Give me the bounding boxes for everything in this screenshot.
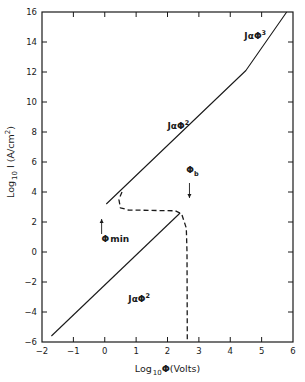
arrowhead-icon <box>187 194 191 198</box>
y-tick-label: 14 <box>26 37 37 47</box>
y-tick-label: 0 <box>32 247 37 257</box>
annotation-phi-b: Φb <box>186 165 199 178</box>
y-tick-label: −4 <box>24 307 37 317</box>
x-tick-label: 5 <box>259 346 264 356</box>
y-tick-label: 12 <box>26 67 37 77</box>
y-tick-label: 10 <box>26 97 37 107</box>
chart: −2−10123456−6−4−20246810121416 JαΦ3JαΦ2J… <box>0 0 305 382</box>
y-tick-label: 6 <box>32 157 37 167</box>
x-tick-label: −1 <box>67 346 80 356</box>
y-tick-label: 4 <box>32 187 37 197</box>
y-tick-label: 8 <box>32 127 37 137</box>
solid-line-series <box>51 213 180 336</box>
annotation-j-phi3: JαΦ3 <box>243 29 266 41</box>
y-tick-label: −6 <box>24 337 37 347</box>
y-tick-label: −2 <box>24 277 37 287</box>
x-axis-label: Log10Φ(Volts) <box>135 363 200 377</box>
plot-frame <box>42 12 293 342</box>
dashed-transition-curve <box>119 192 187 342</box>
annotation-phi-min: Φmin <box>102 234 130 244</box>
axis-ticks <box>42 12 293 342</box>
x-tick-label: 0 <box>102 346 107 356</box>
axis-tick-labels: −2−10123456−6−4−20246810121416 <box>24 7 295 356</box>
x-tick-label: −2 <box>36 346 49 356</box>
y-axis-label: Log10 I (A/cm2) <box>4 126 19 198</box>
annotations: JαΦ3JαΦ2JαΦ2ΦbΦmin <box>100 29 266 304</box>
y-tick-label: 16 <box>26 7 37 17</box>
y-tick-label: 2 <box>32 217 37 227</box>
data-series <box>51 12 286 342</box>
arrowhead-icon <box>100 219 104 223</box>
x-tick-label: 6 <box>290 346 295 356</box>
x-tick-label: 4 <box>228 346 233 356</box>
annotation-j-phi2-lower: JαΦ2 <box>127 292 150 304</box>
x-tick-label: 3 <box>196 346 201 356</box>
x-tick-label: 2 <box>165 346 170 356</box>
x-tick-label: 1 <box>133 346 138 356</box>
annotation-j-phi2-upper: JαΦ2 <box>167 119 190 131</box>
